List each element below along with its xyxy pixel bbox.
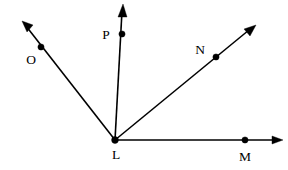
- point-p-dot: [119, 31, 125, 37]
- point-p-label: P: [102, 27, 110, 42]
- point-n-dot: [213, 54, 219, 60]
- point-l-label: L: [112, 147, 120, 162]
- ray-lp-arrowhead: [118, 4, 127, 17]
- ray-lp-line: [115, 11, 122, 140]
- point-m-dot: [242, 137, 248, 143]
- rays-figure: O P N M L: [0, 0, 288, 170]
- ray-lp-group: P: [102, 4, 127, 140]
- ray-lm-arrowhead: [272, 136, 283, 144]
- point-m-label: M: [239, 149, 251, 164]
- ray-ln-line: [115, 30, 249, 140]
- ray-lm-group: M: [115, 136, 283, 164]
- ray-lo-group: O: [22, 21, 115, 140]
- point-n-label: N: [195, 42, 205, 57]
- point-o-label: O: [26, 52, 36, 67]
- ray-ln-arrowhead: [244, 25, 256, 36]
- ray-lo-arrowhead: [22, 21, 33, 32]
- point-l-dot: [112, 137, 119, 144]
- geometry-diagram: O P N M L: [0, 0, 288, 170]
- ray-ln-group: N: [115, 25, 256, 140]
- point-o-dot: [38, 44, 44, 50]
- ray-lo-line: [26, 26, 115, 140]
